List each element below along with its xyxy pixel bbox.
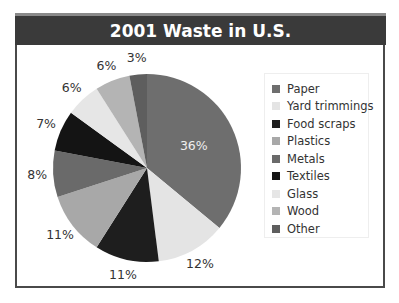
legend-item-wood: Wood (272, 203, 368, 221)
legend-label: Food scraps (287, 117, 356, 131)
legend-swatch (272, 102, 280, 110)
legend-label: Other (287, 222, 320, 236)
pie-slices (53, 74, 241, 262)
legend-swatch (272, 190, 280, 198)
legend-item-food-scraps: Food scraps (272, 115, 368, 133)
legend-swatch (272, 137, 280, 145)
legend-item-textiles: Textiles (272, 168, 368, 186)
legend-item-plastics: Plastics (272, 133, 368, 151)
slice-label: 3% (127, 50, 147, 65)
legend-item-metals: Metals (272, 150, 368, 168)
legend-label: Yard trimmings (287, 99, 374, 113)
legend-item-paper: Paper (272, 80, 368, 98)
legend-swatch (272, 155, 280, 163)
legend-label: Textiles (287, 169, 330, 183)
legend-label: Glass (287, 187, 318, 201)
legend-swatch (272, 225, 280, 233)
slice-label: 11% (46, 227, 74, 242)
slice-label: 36% (180, 138, 208, 153)
legend: Paper Yard trimmings Food scraps Plastic… (264, 73, 369, 238)
legend-label: Metals (287, 152, 325, 166)
legend-label: Paper (287, 82, 320, 96)
legend-item-yard-trimmings: Yard trimmings (272, 98, 368, 116)
legend-item-other: Other (272, 220, 368, 238)
slice-label: 7% (36, 116, 56, 131)
slice-label: 6% (97, 58, 117, 73)
slice-label: 11% (109, 267, 137, 282)
legend-label: Wood (287, 204, 319, 218)
legend-swatch (272, 85, 280, 93)
legend-label: Plastics (287, 134, 330, 148)
legend-swatch (272, 120, 280, 128)
legend-swatch (272, 207, 280, 215)
slice-label: 12% (186, 256, 214, 271)
legend-item-glass: Glass (272, 185, 368, 203)
legend-swatch (272, 172, 280, 180)
slice-label: 8% (27, 167, 47, 182)
slice-label: 6% (62, 80, 82, 95)
